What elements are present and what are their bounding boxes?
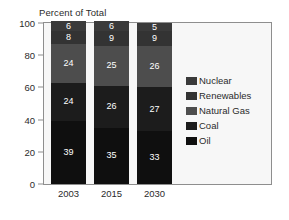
y-axis-tick-mark	[38, 55, 43, 56]
bar-segment-value-label: 9	[152, 34, 157, 43]
legend-item[interactable]: Nuclear	[186, 73, 270, 88]
y-axis-tick-mark	[38, 119, 43, 120]
bar-segment[interactable]: 24	[51, 83, 86, 122]
bar-segment[interactable]: 39	[51, 121, 86, 184]
legend-swatch-icon	[186, 92, 197, 100]
x-axis: 200320152030	[43, 188, 272, 206]
chart-title: Percent of Total	[39, 7, 106, 18]
bar-segment-value-label: 9	[109, 34, 114, 43]
legend-item-label: Natural Gas	[199, 106, 250, 116]
chart-legend: NuclearRenewablesNatural GasCoalOil	[186, 73, 270, 148]
bar-segment-value-label: 24	[63, 97, 73, 106]
legend-item[interactable]: Natural Gas	[186, 103, 270, 118]
bar-segment[interactable]: 26	[137, 46, 172, 88]
y-axis-tick-label: 0	[30, 179, 35, 190]
bar-segment-value-label: 8	[66, 33, 71, 42]
legend-item-label: Oil	[199, 136, 211, 146]
bar-segment-value-label: 33	[149, 153, 159, 162]
bar-segment-value-label: 6	[109, 22, 114, 31]
bar-segment[interactable]: 6	[51, 21, 86, 31]
legend-item[interactable]: Renewables	[186, 88, 270, 103]
bar-segment-value-label: 25	[106, 61, 116, 70]
y-axis-tick-label: 40	[24, 114, 35, 125]
bar-segment-value-label: 27	[149, 105, 159, 114]
legend-item-label: Nuclear	[199, 76, 232, 86]
legend-swatch-icon	[186, 107, 197, 115]
bar-segment[interactable]: 26	[94, 86, 129, 128]
y-axis-tick-mark	[38, 184, 43, 185]
y-axis-tick-mark	[38, 151, 43, 152]
bar-segment[interactable]: 27	[137, 87, 172, 130]
bar-segment-value-label: 6	[66, 22, 71, 31]
legend-swatch-icon	[186, 122, 197, 130]
legend-swatch-icon	[186, 137, 197, 145]
bar-segment[interactable]: 9	[137, 31, 172, 45]
bar-segment[interactable]: 24	[51, 44, 86, 83]
bar-segment[interactable]: 25	[94, 46, 129, 86]
y-axis-tick-label: 80	[24, 50, 35, 61]
bar-segment-value-label: 39	[63, 148, 73, 157]
y-axis-tick-mark	[38, 23, 43, 24]
legend-item[interactable]: Coal	[186, 118, 270, 133]
bar-segment[interactable]: 33	[137, 131, 172, 184]
legend-swatch-icon	[186, 77, 197, 85]
stacked-bar-chart: Percent of Total 020406080100 3924248635…	[0, 0, 289, 220]
bar-segment-value-label: 5	[152, 23, 157, 31]
y-axis-tick-label: 60	[24, 82, 35, 93]
bar-column[interactable]: 39242486	[51, 23, 86, 184]
bar-segment[interactable]: 6	[94, 21, 129, 31]
bar-column[interactable]: 33272695	[137, 23, 172, 184]
legend-item-label: Renewables	[199, 91, 251, 101]
bar-column[interactable]: 35262596	[94, 23, 129, 184]
y-axis-tick-mark	[38, 87, 43, 88]
y-axis: 020406080100	[0, 16, 43, 191]
bar-segment[interactable]: 35	[94, 128, 129, 184]
bar-segment[interactable]: 5	[137, 23, 172, 31]
x-axis-tick-label: 2003	[58, 188, 79, 199]
bar-segment-value-label: 35	[106, 151, 116, 160]
bar-segment-value-label: 26	[149, 62, 159, 71]
x-axis-tick-label: 2015	[101, 188, 122, 199]
y-axis-tick-label: 100	[19, 18, 35, 29]
legend-item-label: Coal	[199, 121, 219, 131]
legend-item[interactable]: Oil	[186, 133, 270, 148]
bar-segment[interactable]: 8	[51, 31, 86, 44]
x-axis-tick-label: 2030	[144, 188, 165, 199]
y-axis-tick-label: 20	[24, 146, 35, 157]
bar-segment-value-label: 26	[106, 102, 116, 111]
bar-segment-value-label: 24	[63, 59, 73, 68]
bar-segment[interactable]: 9	[94, 31, 129, 45]
